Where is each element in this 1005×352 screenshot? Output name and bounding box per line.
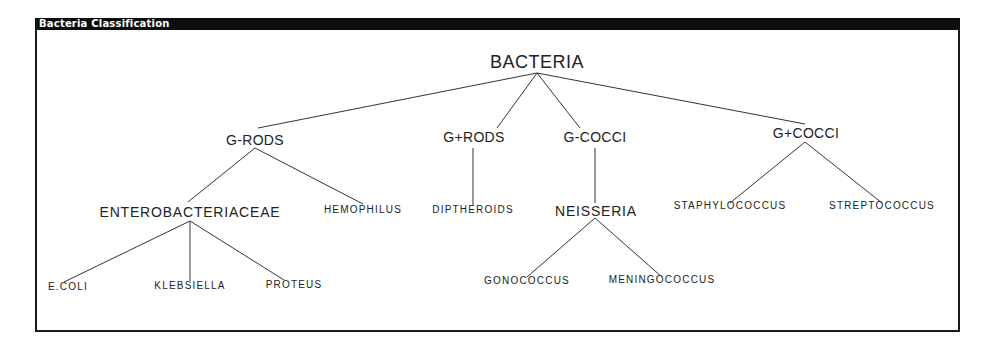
edge-g-plus-cocci-streptococcus [805, 142, 882, 203]
edge-g-plus-cocci-staphylococcus [730, 142, 805, 203]
node-staphylococcus: STAPHYLOCOCCUS [674, 201, 787, 211]
node-streptococcus: STREPTOCOCCUS [829, 201, 935, 211]
edge-enterobacteriaceae-ecoli [64, 221, 190, 282]
edge-bacteria-g-rods [258, 73, 537, 128]
node-ecoli: E.COLI [48, 282, 88, 292]
node-neisseria: NEISSERIA [555, 204, 637, 218]
edge-enterobacteriaceae-proteus [190, 221, 284, 280]
node-gonococcus: GONOCOCCUS [484, 276, 570, 286]
node-meningococcus: MENINGOCOCCUS [609, 275, 716, 285]
node-bacteria: BACTERIA [490, 53, 584, 71]
edge-bacteria-g-plus-rods [497, 73, 537, 128]
node-g-plus-cocci: G+COCCI [773, 126, 839, 140]
edge-g-rods-enterobacteriaceae [188, 148, 255, 202]
node-klebsiella: KLEBSIELLA [154, 281, 225, 291]
node-g-rods: G-RODS [226, 133, 284, 147]
node-hemophilus: HEMOPHILUS [324, 205, 402, 215]
edge-bacteria-g-plus-cocci [537, 73, 805, 124]
node-g-cocci: G-COCCI [564, 130, 627, 144]
edge-neisseria-meningococcus [595, 218, 662, 277]
edge-neisseria-gonococcus [527, 218, 595, 277]
node-enterobacteriaceae: ENTEROBACTERIACEAE [100, 205, 281, 219]
node-g-plus-rods: G+RODS [443, 130, 504, 144]
edge-g-rods-hemophilus [255, 148, 363, 204]
node-diptheroids: DIPTHEROIDS [432, 205, 514, 215]
node-proteus: PROTEUS [266, 280, 323, 290]
edge-bacteria-g-cocci [537, 73, 580, 128]
